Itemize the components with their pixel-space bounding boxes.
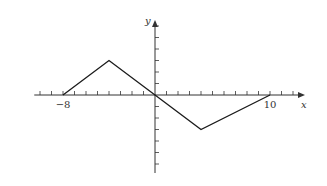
x-axis-arrow-icon: [298, 92, 305, 98]
axes: [34, 20, 305, 173]
x-axis-label: x: [301, 99, 307, 110]
x-tick-label: 10: [264, 99, 277, 110]
y-axis-label: y: [144, 15, 151, 26]
x-tick-label: −8: [56, 99, 71, 110]
function-graph: x y −810: [0, 0, 327, 186]
